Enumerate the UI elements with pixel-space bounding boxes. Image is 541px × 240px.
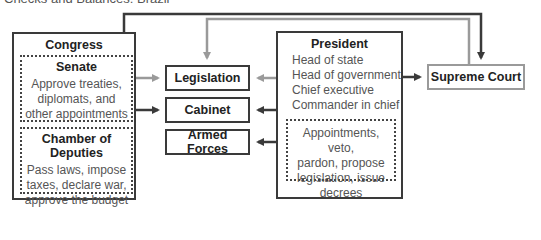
president-title: President (278, 37, 401, 51)
armed-forces-box: Armed Forces (165, 129, 250, 155)
cabinet-box: Cabinet (165, 97, 250, 123)
senate-title: Senate (22, 60, 131, 74)
congress-title: Congress (14, 38, 134, 52)
president-powers: Appointments, veto, pardon, propose legi… (288, 126, 394, 201)
chamber-of-deputies-box: Chamber of Deputies Pass laws, impose ta… (20, 127, 133, 194)
president-powers-box: Appointments, veto, pardon, propose legi… (286, 119, 396, 181)
chamber-title: Chamber of Deputies (22, 132, 131, 160)
chamber-powers: Pass laws, impose taxes, declare war, ap… (22, 163, 131, 208)
legislation-box: Legislation (165, 65, 250, 91)
senate-powers: Approve treaties, diplomats, and other a… (22, 77, 131, 122)
president-roles: Head of state Head of government Chief e… (292, 53, 401, 113)
supreme-court-box: Supreme Court (427, 64, 525, 90)
senate-box: Senate Approve treaties, diplomats, and … (20, 55, 133, 122)
